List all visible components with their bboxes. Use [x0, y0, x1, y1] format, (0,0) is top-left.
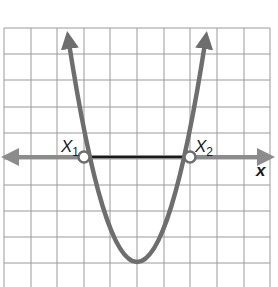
parabola-graph: X1 X2 x — [0, 0, 278, 287]
root-point-x2 — [185, 152, 196, 163]
root-point-x1 — [79, 152, 90, 163]
label-x1: X1 — [60, 137, 79, 159]
label-x2: X2 — [194, 137, 213, 159]
x-axis-label: x — [255, 161, 267, 180]
